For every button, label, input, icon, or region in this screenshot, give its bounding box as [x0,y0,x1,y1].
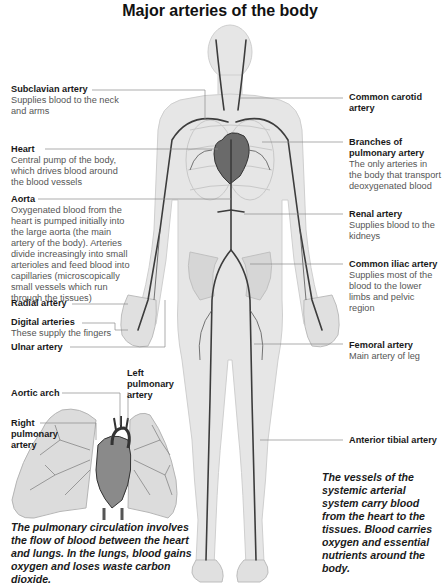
label-common-iliac-artery: Common iliac artery Supplies most of the… [349,259,441,314]
label-ulnar-artery: Ulnar artery [11,342,121,353]
caption-systemic-circulation: The vessels of the systemic arterial sys… [322,471,440,575]
label-femoral-artery: Femoral artery Main artery of leg [349,340,439,362]
label-common-carotid-artery: Common carotid artery [349,92,439,114]
label-aortic-arch: Aortic arch [11,388,71,399]
inset-heart [96,436,131,508]
label-renal-artery: Renal artery Supplies blood to the kidne… [349,209,439,242]
label-heart: Heart Central pump of the body, which dr… [11,144,126,188]
lungs-inset [12,392,177,520]
label-digital-arteries: Digital arteries These supply the finger… [11,317,126,339]
label-right-pulmonary-artery: Right pulmonary artery [11,418,57,451]
label-aorta: Aorta Oxygenated blood from the heart is… [11,194,137,304]
label-radial-artery: Radial artery [11,298,121,309]
feet [192,560,268,582]
label-subclavian-artery: Subclavian artery Supplies blood to the … [11,84,121,117]
caption-pulmonary-circulation: The pulmonary circulation involves the f… [11,521,196,586]
label-anterior-tibial-artery: Anterior tibial artery [349,435,444,446]
label-left-pulmonary-artery: Left pulmonary artery [127,368,179,401]
label-branches-of-pulmonary-artery: Branches of pulmonary artery The only ar… [349,137,441,192]
